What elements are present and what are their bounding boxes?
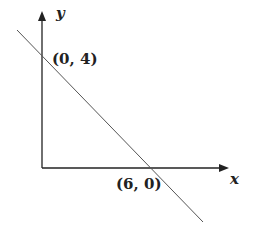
graph-line xyxy=(17,30,203,222)
y-axis-arrow-icon xyxy=(38,11,46,21)
x-axis-label: x xyxy=(230,170,239,188)
x-axis-arrow-icon xyxy=(219,164,229,172)
y-axis-label: y xyxy=(56,4,65,22)
diagram: y x (0, 4) (6, 0) xyxy=(0,0,255,225)
point-label-x-intercept: (6, 0) xyxy=(116,175,162,193)
point-label-y-intercept: (0, 4) xyxy=(52,50,98,68)
